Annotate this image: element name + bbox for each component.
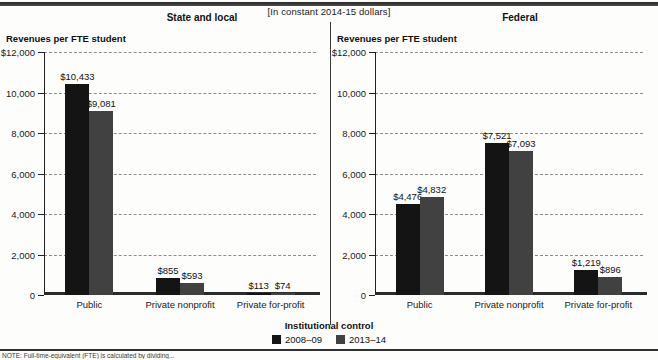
bar-value-label: $855 (157, 265, 178, 276)
legend-label: 2013–14 (349, 334, 386, 345)
x-axis-category-label: Private nonprofit (474, 299, 543, 310)
bar[interactable]: $10,433 (65, 84, 89, 295)
bar-group: $855$593Private nonprofit (135, 278, 226, 295)
bar[interactable]: $7,521 (485, 143, 509, 295)
y-axis-tick-label: 10,000 (337, 87, 366, 98)
legend: 2008–09 2013–14 (0, 334, 658, 345)
bar-value-label: $1,219 (572, 257, 601, 268)
bar-value-label: $113 (248, 280, 268, 291)
x-axis-category-label: Private for-profit (237, 299, 305, 310)
bar[interactable]: $593 (180, 283, 204, 295)
bar[interactable]: $74 (271, 293, 295, 295)
chart-federal: 02,0004,0006,0008,00010,000$12,000$4,476… (375, 52, 643, 295)
plot-area-left: 02,0004,0006,0008,00010,000$12,000$10,43… (44, 52, 316, 295)
y-axis-tick-label: 8,000 (342, 128, 366, 139)
y-axis-tick-label: 2,000 (11, 249, 35, 260)
x-axis-category-label: Private for-profit (565, 299, 633, 310)
y-axis-tick-label: 4,000 (342, 209, 366, 220)
bar-value-label: $7,093 (506, 138, 535, 149)
x-axis-category-label: Public (76, 299, 102, 310)
gridline (44, 52, 316, 53)
bar-value-label: $9,081 (87, 98, 116, 109)
y-axis-tick-label: 6,000 (11, 168, 35, 179)
bar-value-label: $10,433 (60, 71, 94, 82)
y-axis-title-left: Revenues per FTE student (6, 33, 126, 44)
legend-label: 2008–09 (285, 334, 322, 345)
bar-value-label: $593 (181, 270, 202, 281)
y-axis-tick-label: 0 (361, 290, 366, 301)
bar-group: $10,433$9,081Public (44, 84, 135, 295)
legend-swatch-icon (272, 335, 281, 344)
bar[interactable]: $1,219 (574, 270, 598, 295)
bar[interactable]: $9,081 (89, 111, 113, 295)
y-axis-tick-label: 4,000 (11, 209, 35, 220)
y-axis-tick (38, 295, 44, 296)
legend-title: Institutional control (0, 320, 658, 331)
bar[interactable]: $855 (156, 278, 180, 295)
bar[interactable]: $896 (598, 277, 622, 295)
bar-value-label: $74 (275, 280, 291, 291)
gridline (375, 93, 643, 94)
y-axis-tick-label: 2,000 (342, 249, 366, 260)
bar-value-label: $4,832 (417, 184, 446, 195)
bar-group: $113$74Private for-profit (225, 293, 316, 295)
y-axis-tick-label: 8,000 (11, 128, 35, 139)
x-axis-category-label: Private nonprofit (145, 299, 214, 310)
y-axis-tick (369, 295, 375, 296)
chart-state-and-local: 02,0004,0006,0008,00010,000$12,000$10,43… (44, 52, 316, 295)
y-axis-tick-label: 10,000 (6, 87, 35, 98)
bar[interactable]: $4,476 (396, 204, 420, 295)
y-axis-tick-label: $12,000 (332, 47, 366, 58)
bar[interactable]: $7,093 (509, 151, 533, 295)
y-axis-tick-label: 6,000 (342, 168, 366, 179)
x-axis-category-label: Public (407, 299, 433, 310)
bottom-divider-rule (0, 349, 658, 351)
panel-title-state-and-local: State and local (142, 12, 262, 23)
bar-group: $4,476$4,832Public (375, 197, 464, 295)
bar-value-label: $896 (600, 264, 621, 275)
panel-title-federal: Federal (470, 12, 570, 23)
figure-note: NOTE: Full-time-equivalent (FTE) is calc… (2, 352, 652, 359)
gridline (375, 52, 643, 53)
plot-area-right: 02,0004,0006,0008,00010,000$12,000$4,476… (375, 52, 643, 295)
bar[interactable]: $113 (247, 293, 271, 295)
legend-item-2013-14[interactable]: 2013–14 (336, 334, 386, 345)
panel-divider (330, 22, 331, 325)
y-axis-tick-label: $12,000 (1, 47, 35, 58)
bar-group: $1,219$896Private for-profit (554, 270, 643, 295)
bar[interactable]: $4,832 (420, 197, 444, 295)
bar-group: $7,521$7,093Private nonprofit (464, 143, 553, 295)
y-axis-title-right: Revenues per FTE student (337, 33, 457, 44)
y-axis-tick-label: 0 (30, 290, 35, 301)
legend-item-2008-09[interactable]: 2008–09 (272, 334, 322, 345)
legend-swatch-icon (336, 335, 345, 344)
